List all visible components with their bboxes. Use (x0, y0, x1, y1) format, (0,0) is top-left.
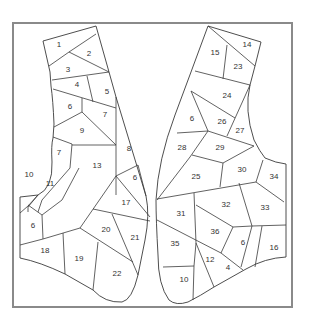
piece-number-label: 18 (41, 246, 50, 255)
piece-number-label: 1 (57, 40, 62, 49)
piece-number-label: 6 (68, 102, 73, 111)
piece-number-label: 8 (127, 144, 132, 153)
piece-number-label: 31 (177, 209, 186, 218)
piece-number-label: 26 (218, 117, 227, 126)
vest-pattern-diagram: 123456797813101161762021181922 141523246… (0, 0, 310, 325)
piece-number-label: 24 (223, 91, 232, 100)
piece-number-label: 27 (236, 126, 245, 135)
piece-number-label: 6 (31, 221, 36, 230)
piece-number-label: 10 (180, 275, 189, 284)
piece-number-label: 2 (87, 49, 92, 58)
piece-number-label: 15 (211, 48, 220, 57)
piece-number-label: 21 (131, 233, 140, 242)
piece-number-label: 4 (226, 263, 231, 272)
piece-number-label: 6 (133, 173, 138, 182)
piece-number-label: 33 (261, 203, 270, 212)
piece-number-label: 19 (75, 254, 84, 263)
piece-number-label: 7 (57, 148, 62, 157)
piece-number-label: 35 (171, 239, 180, 248)
piece-number-label: 28 (178, 143, 187, 152)
piece-number-label: 14 (243, 40, 252, 49)
piece-number-label: 7 (103, 110, 108, 119)
piece-number-label: 9 (80, 126, 85, 135)
piece-number-label: 20 (102, 225, 111, 234)
piece-number-label: 16 (270, 243, 279, 252)
piece-number-label: 22 (113, 269, 122, 278)
piece-number-label: 4 (75, 80, 80, 89)
piece-number-label: 25 (192, 172, 201, 181)
piece-number-label: 36 (211, 227, 220, 236)
piece-number-label: 17 (122, 198, 131, 207)
piece-number-label: 11 (46, 179, 55, 188)
piece-number-label: 34 (270, 172, 279, 181)
piece-number-label: 5 (105, 87, 110, 96)
piece-number-label: 32 (222, 200, 231, 209)
piece-number-label: 10 (25, 170, 34, 179)
piece-number-label: 30 (238, 165, 247, 174)
piece-number-label: 23 (234, 62, 243, 71)
piece-number-label: 3 (66, 65, 71, 74)
piece-number-label: 29 (216, 143, 225, 152)
piece-number-label: 12 (206, 255, 215, 264)
piece-number-label: 13 (93, 161, 102, 170)
piece-number-label: 6 (241, 238, 246, 247)
piece-number-label: 6 (190, 114, 195, 123)
